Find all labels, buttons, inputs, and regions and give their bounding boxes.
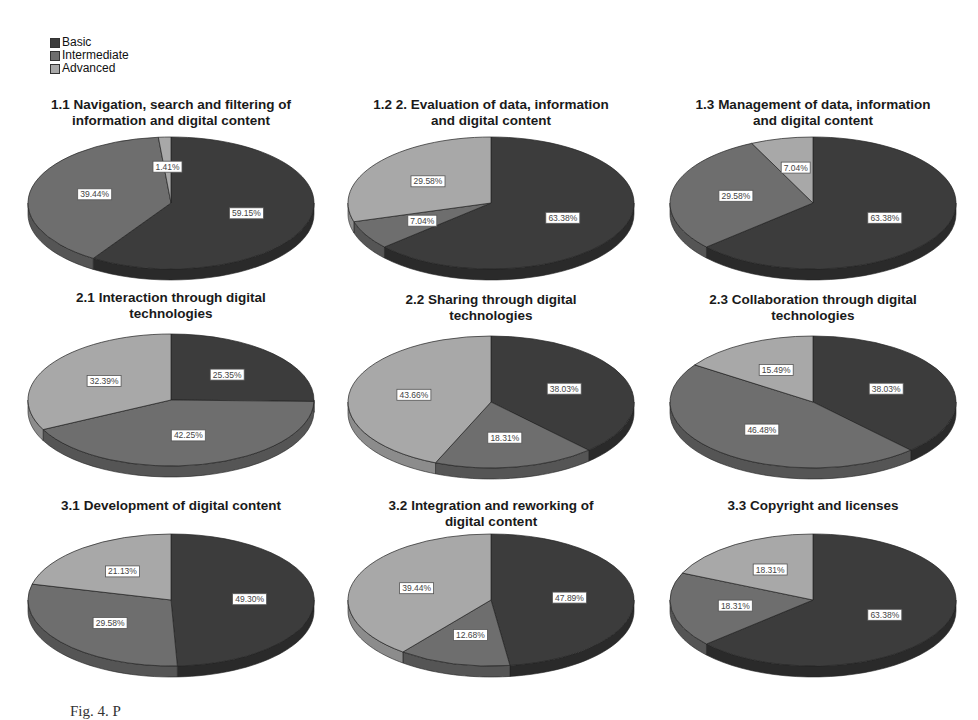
slice-value-label: 1.41% [153, 161, 182, 172]
slice-value-label: 38.03% [869, 383, 903, 394]
svg-text:49.30%: 49.30% [235, 594, 264, 604]
pie: 47.89%12.68%39.44% [328, 528, 654, 693]
chart-title: 1.1 Navigation, search and filtering of … [8, 97, 334, 129]
svg-text:39.44%: 39.44% [80, 189, 109, 199]
svg-text:29.58%: 29.58% [721, 191, 750, 201]
slice-value-label: 59.15% [229, 208, 263, 219]
svg-text:63.38%: 63.38% [870, 213, 899, 223]
pie: 25.35%42.25%32.39% [8, 328, 334, 493]
svg-text:38.03%: 38.03% [550, 384, 579, 394]
pie-chart-2-1: 2.1 Interaction through digital technolo… [8, 290, 334, 490]
chart-title-line: and digital content [328, 113, 654, 129]
svg-text:32.39%: 32.39% [90, 376, 119, 386]
slice-value-label: 18.31% [718, 600, 752, 611]
svg-text:1.41%: 1.41% [155, 162, 180, 172]
chart-title: 1.3 Management of data, information and … [650, 97, 976, 129]
svg-text:25.35%: 25.35% [213, 370, 242, 380]
chart-title: 2.2 Sharing through digital technologies [328, 292, 654, 324]
slice-value-label: 25.35% [210, 369, 244, 380]
chart-title-line: information and digital content [8, 113, 334, 129]
legend-swatch-advanced [50, 64, 60, 74]
pie-slice-basic [171, 334, 314, 401]
pie-chart-1-3: 1.3 Management of data, information and … [650, 93, 976, 293]
slice-value-label: 7.04% [781, 162, 810, 173]
chart-title-line: 2.3 Collaboration through digital [650, 292, 976, 308]
svg-text:47.89%: 47.89% [555, 593, 584, 603]
legend-swatch-intermediate [50, 51, 60, 61]
chart-title-line: 1.1 Navigation, search and filtering of [8, 97, 334, 113]
figure-caption: Fig. 4. P [70, 703, 121, 720]
chart-title-line: and digital content [650, 113, 976, 129]
chart-title-line: technologies [650, 308, 976, 324]
svg-text:18.31%: 18.31% [721, 601, 750, 611]
svg-text:63.38%: 63.38% [870, 610, 899, 620]
pie-chart-3-1: 3.1 Development of digital content 49.30… [8, 498, 334, 698]
chart-title: 3.3 Copyright and licenses [650, 498, 976, 514]
slice-value-label: 32.39% [87, 375, 121, 386]
pie: 38.03%46.48%15.49% [650, 330, 976, 495]
slice-value-label: 15.49% [759, 364, 793, 375]
svg-text:21.13%: 21.13% [108, 566, 137, 576]
pie: 59.15%39.44%1.41% [8, 131, 334, 296]
chart-title: 2.3 Collaboration through digital techno… [650, 292, 976, 324]
slice-value-label: 49.30% [233, 594, 267, 605]
svg-text:7.04%: 7.04% [410, 216, 435, 226]
svg-text:43.66%: 43.66% [399, 390, 428, 400]
pie-chart-1-1: 1.1 Navigation, search and filtering of … [8, 93, 334, 293]
slice-value-label: 12.68% [453, 630, 487, 641]
slice-value-label: 39.44% [78, 189, 112, 200]
slice-value-label: 18.31% [753, 564, 787, 575]
legend-item-advanced: Advanced [50, 62, 129, 75]
pie-chart-1-2: 1.2 2. Evaluation of data, information a… [328, 93, 654, 293]
pie: 38.03%18.31%43.66% [328, 330, 654, 495]
chart-title-line: technologies [8, 306, 334, 322]
pie-chart-2-2: 2.2 Sharing through digital technologies… [328, 292, 654, 492]
pie: 63.38%18.31%18.31% [650, 528, 976, 693]
pie: 49.30%29.58%21.13% [8, 528, 334, 693]
slice-value-label: 63.38% [546, 212, 580, 223]
chart-title-line: 2.1 Interaction through digital [8, 290, 334, 306]
slice-value-label: 43.66% [397, 389, 431, 400]
svg-text:46.48%: 46.48% [747, 425, 776, 435]
svg-text:7.04%: 7.04% [784, 163, 809, 173]
pie-chart-2-3: 2.3 Collaboration through digital techno… [650, 292, 976, 492]
svg-text:12.68%: 12.68% [456, 630, 485, 640]
slice-value-label: 63.38% [868, 212, 902, 223]
svg-text:39.44%: 39.44% [402, 583, 431, 593]
svg-text:18.31%: 18.31% [756, 565, 785, 575]
chart-title-line: 3.2 Integration and reworking of [328, 498, 654, 514]
chart-title: 3.2 Integration and reworking of digital… [328, 498, 654, 530]
pie: 63.38%7.04%29.58% [328, 131, 654, 296]
svg-text:59.15%: 59.15% [232, 208, 261, 218]
pie-chart-3-2: 3.2 Integration and reworking of digital… [328, 498, 654, 698]
svg-text:18.31%: 18.31% [490, 433, 519, 443]
slice-value-label: 21.13% [106, 566, 140, 577]
slice-value-label: 7.04% [408, 215, 437, 226]
svg-text:15.49%: 15.49% [762, 365, 791, 375]
slice-value-label: 29.58% [93, 618, 127, 629]
slice-value-label: 38.03% [547, 383, 581, 394]
svg-text:38.03%: 38.03% [872, 384, 901, 394]
chart-title: 1.2 2. Evaluation of data, information a… [328, 97, 654, 129]
svg-text:29.58%: 29.58% [414, 176, 443, 186]
legend-swatch-basic [50, 38, 60, 48]
slice-value-label: 63.38% [868, 609, 902, 620]
slice-value-label: 29.58% [719, 190, 753, 201]
legend-label: Advanced [62, 62, 115, 75]
svg-text:29.58%: 29.58% [96, 618, 125, 628]
slice-value-label: 47.89% [553, 592, 587, 603]
chart-title-line: technologies [328, 308, 654, 324]
chart-title-line: 1.3 Management of data, information [650, 97, 976, 113]
slice-value-label: 29.58% [411, 176, 445, 187]
slice-value-label: 18.31% [488, 432, 522, 443]
pie-chart-3-3: 3.3 Copyright and licenses 63.38%18.31%1… [650, 498, 976, 698]
chart-legend: Basic Intermediate Advanced [50, 36, 129, 75]
chart-title-line: 3.1 Development of digital content [8, 498, 334, 514]
slice-value-label: 46.48% [745, 424, 779, 435]
pie: 63.38%29.58%7.04% [650, 131, 976, 296]
chart-title: 3.1 Development of digital content [8, 498, 334, 514]
slice-value-label: 39.44% [400, 583, 434, 594]
chart-title: 2.1 Interaction through digital technolo… [8, 290, 334, 322]
svg-text:63.38%: 63.38% [548, 213, 577, 223]
chart-title-line: 2.2 Sharing through digital [328, 292, 654, 308]
